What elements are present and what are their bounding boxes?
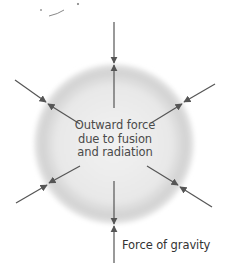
gravity-arrow-lower-left — [16, 185, 47, 203]
gravity-label: Force of gravity — [122, 238, 210, 252]
gravity-arrow-upper-left — [15, 80, 46, 102]
gravity-arrow-upper-right — [184, 84, 215, 102]
outward-force-line-3: and radiation — [64, 146, 166, 160]
outward-force-line-1: Outward force — [64, 119, 166, 133]
outward-force-line-2: due to fusion — [64, 133, 166, 147]
gravity-arrow-lower-right — [180, 187, 212, 207]
stray-marks — [41, 3, 79, 16]
outward-force-label: Outward force due to fusion and radiatio… — [64, 119, 166, 160]
